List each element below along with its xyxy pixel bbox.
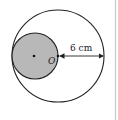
inner-center-dot [33,55,36,58]
center-label-o: O [48,56,56,66]
dimension-label: 6 cm [70,43,93,53]
circles-diagram: 6 cm O [0,0,118,120]
point-o-dot [57,55,60,58]
